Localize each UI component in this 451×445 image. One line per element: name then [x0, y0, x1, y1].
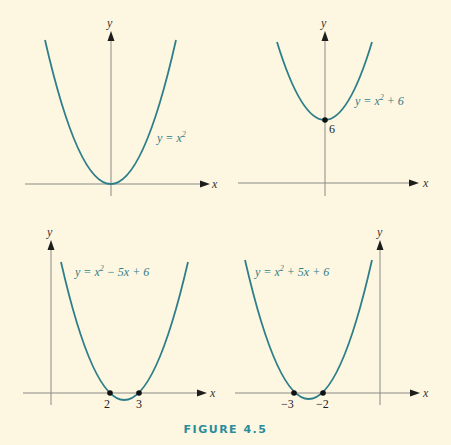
panel-y-equals-x-squared-plus-6: y x 6 y = x2 + 6: [238, 16, 429, 196]
y-axis-label: y: [106, 16, 113, 30]
root-point: [291, 390, 297, 396]
y-axis-arrow-icon: [48, 240, 55, 250]
y-axis-arrow-icon: [108, 31, 115, 41]
root-point: [107, 390, 113, 396]
equation-label: y = x2 + 6: [354, 93, 404, 108]
equation-label: y = x2: [156, 130, 186, 145]
x-axis-label: x: [422, 386, 429, 400]
y-axis-label: y: [320, 16, 327, 30]
x-axis-label: x: [422, 176, 429, 190]
root-label: 2: [104, 397, 110, 411]
vertex-point: [322, 117, 328, 123]
x-axis-arrow-icon: [409, 180, 419, 187]
x-axis-arrow-icon: [410, 390, 420, 397]
y-axis-label: y: [376, 225, 383, 239]
panel-y-equals-x-squared: y x y = x2: [25, 16, 218, 196]
root-label: 3: [136, 397, 142, 411]
panel-y-equals-x-squared-minus-5x-plus-6: y x 2 3 y = x2 − 5x + 6: [23, 225, 216, 411]
root-label: −2: [316, 397, 329, 411]
root-point: [136, 390, 142, 396]
figure-caption: FIGURE 4.5: [0, 423, 451, 436]
equation-label: y = x2 + 5x + 6: [254, 264, 329, 279]
y-axis-label: y: [46, 225, 53, 239]
parabola-curve: [61, 262, 188, 400]
y-axis-arrow-icon: [322, 31, 329, 41]
x-axis-label: x: [211, 177, 218, 191]
root-point: [320, 390, 326, 396]
figure-canvas: y x y = x2 y x 6 y = x2 + 6 y x 2 3 y = …: [0, 0, 451, 445]
root-label: −3: [281, 397, 294, 411]
panel-y-equals-x-squared-plus-5x-plus-6: y x −3 −2 y = x2 + 5x + 6: [235, 225, 429, 411]
x-axis-label: x: [209, 386, 216, 400]
y-intercept-label: 6: [329, 122, 335, 136]
parabola-curve: [245, 260, 372, 399]
equation-label: y = x2 − 5x + 6: [74, 264, 149, 279]
x-axis-arrow-icon: [197, 390, 207, 397]
y-axis-arrow-icon: [377, 240, 384, 250]
x-axis-arrow-icon: [200, 181, 210, 188]
